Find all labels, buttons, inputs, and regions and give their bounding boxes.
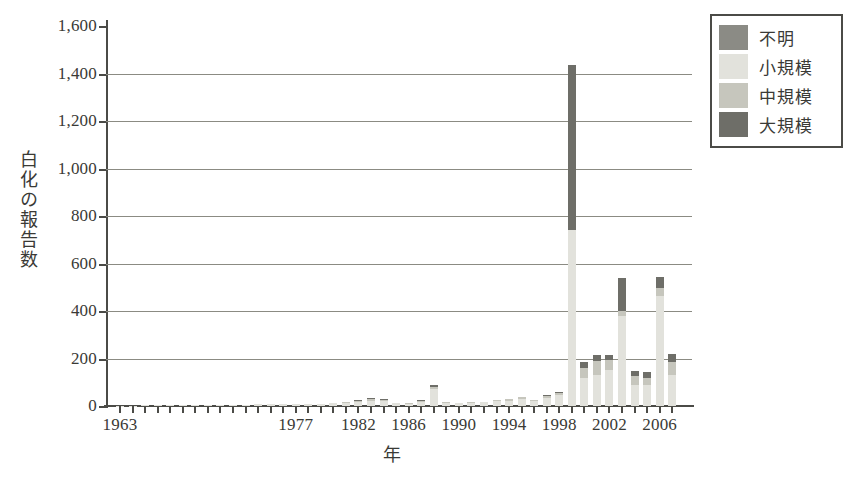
- legend-item: 大規模: [719, 110, 835, 139]
- bar: [380, 399, 388, 406]
- x-tick-mark: [521, 406, 523, 413]
- x-tick-label: 1977: [278, 415, 313, 435]
- x-tick-mark: [621, 406, 623, 413]
- bar-segment-small: [593, 375, 601, 406]
- x-tick-mark: [634, 406, 636, 413]
- bar-segment-small: [605, 370, 613, 406]
- x-tick-mark: [219, 406, 221, 413]
- x-tick-mark: [119, 406, 121, 413]
- x-tick-mark: [345, 406, 347, 413]
- bar: [656, 277, 664, 406]
- bar-segment-small: [518, 399, 526, 406]
- y-tick-mark: [99, 26, 106, 28]
- x-tick-mark: [470, 406, 472, 413]
- x-tick-mark: [332, 406, 334, 413]
- bar-segment-small: [656, 296, 664, 406]
- x-tick-mark: [496, 406, 498, 413]
- x-tick-label: 1963: [103, 415, 138, 435]
- legend: 不明小規模中規模大規模: [710, 14, 843, 148]
- y-tick-label: 1,200: [58, 112, 97, 129]
- bar: [631, 371, 639, 406]
- x-tick-mark: [320, 406, 322, 413]
- bar-segment-small: [430, 389, 438, 406]
- y-tick-label: 1,400: [58, 65, 97, 82]
- x-tick-mark: [571, 406, 573, 413]
- legend-label: 中規模: [759, 83, 813, 108]
- x-tick-mark: [659, 406, 661, 413]
- gridline: [106, 74, 692, 75]
- bar-segment-medium: [631, 376, 639, 384]
- y-tick-mark: [99, 311, 106, 313]
- bar-segment-large: [668, 354, 676, 362]
- x-tick-mark: [169, 406, 171, 413]
- bar-segment-small: [668, 375, 676, 406]
- bar-segment-medium: [656, 288, 664, 295]
- gridline: [106, 169, 692, 170]
- bar-segment-small: [618, 316, 626, 406]
- x-tick-mark: [207, 406, 209, 413]
- x-tick-mark: [182, 406, 184, 413]
- gridline: [106, 264, 692, 265]
- x-tick-mark: [194, 406, 196, 413]
- x-tick-mark: [533, 406, 535, 413]
- x-tick-mark: [257, 406, 259, 413]
- bar: [430, 385, 438, 406]
- x-tick-mark: [483, 406, 485, 413]
- bar-segment-medium: [580, 368, 588, 378]
- y-tick-label: 0: [88, 397, 97, 414]
- bar: [568, 65, 576, 406]
- bar: [605, 355, 613, 406]
- legend-swatch: [719, 112, 748, 137]
- bar-segment-small: [631, 385, 639, 406]
- bar-segment-small: [643, 385, 651, 406]
- legend-swatch: [719, 54, 748, 79]
- x-axis-title: 年: [383, 440, 401, 466]
- x-tick-label: 1990: [441, 415, 476, 435]
- y-tick-label: 200: [71, 350, 97, 367]
- y-axis-title: 白化の報告数: [14, 150, 40, 270]
- x-tick-mark: [646, 406, 648, 413]
- bar: [618, 278, 626, 406]
- x-tick-mark: [132, 406, 134, 413]
- x-tick-mark: [357, 406, 359, 413]
- x-tick-mark: [383, 406, 385, 413]
- legend-item: 中規模: [719, 81, 835, 110]
- legend-swatch: [719, 25, 748, 50]
- legend-label: 不明: [759, 25, 795, 50]
- bar-segment-medium: [593, 361, 601, 375]
- y-tick-label: 600: [71, 255, 97, 272]
- bar: [505, 399, 513, 406]
- bar-segment-medium: [643, 378, 651, 385]
- x-tick-mark: [433, 406, 435, 413]
- legend-label: 小規模: [759, 54, 813, 79]
- x-tick-mark: [144, 406, 146, 413]
- gridline: [106, 216, 692, 217]
- x-tick-mark: [395, 406, 397, 413]
- x-tick-mark: [608, 406, 610, 413]
- x-tick-mark: [420, 406, 422, 413]
- x-tick-mark: [558, 406, 560, 413]
- x-tick-mark: [370, 406, 372, 413]
- y-tick-mark: [99, 169, 106, 171]
- x-tick-mark: [458, 406, 460, 413]
- bar-segment-small: [555, 395, 563, 406]
- y-tick-mark: [99, 216, 106, 218]
- y-tick-mark: [99, 74, 106, 76]
- legend-item: 不明: [719, 23, 835, 52]
- bar-segment-large: [656, 277, 664, 289]
- x-tick-label: 2006: [642, 415, 677, 435]
- y-tick-mark: [99, 264, 106, 266]
- legend-swatch: [719, 83, 748, 108]
- x-tick-mark: [245, 406, 247, 413]
- x-tick-mark: [157, 406, 159, 413]
- y-tick-label: 800: [71, 207, 97, 224]
- bar: [367, 398, 375, 406]
- bar-segment-large: [618, 278, 626, 311]
- y-tick-mark: [99, 406, 106, 408]
- x-tick-label: 1994: [492, 415, 527, 435]
- x-tick-mark: [508, 406, 510, 413]
- x-tick-mark: [270, 406, 272, 413]
- x-tick-mark: [295, 406, 297, 413]
- bar: [668, 354, 676, 406]
- x-tick-mark: [671, 406, 673, 413]
